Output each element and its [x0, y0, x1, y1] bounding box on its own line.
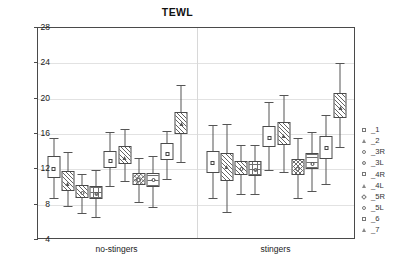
chart-root: TEWL 481216202428 no-stingersstingers _1… [0, 0, 409, 269]
whisker-cap-top [134, 158, 143, 159]
whisker-cap-bottom [149, 207, 158, 208]
whisker-cap-top [336, 63, 345, 64]
mean-marker [151, 178, 155, 182]
boxplot-no-stingers-_3L [89, 28, 103, 240]
box [206, 151, 219, 173]
y-tick-mark [34, 27, 38, 28]
triangle-icon [360, 226, 368, 234]
triangle-icon [360, 137, 368, 145]
box [104, 151, 117, 168]
boxplot-no-stingers-_4R [103, 28, 117, 240]
boxplot-stingers-_5R [291, 28, 305, 240]
mean-marker [165, 152, 169, 156]
x-axis-label: stingers [261, 244, 291, 254]
boxplot-stingers-_4R [262, 28, 276, 240]
whisker-cap-bottom [251, 194, 260, 195]
legend-item-_5L[interactable]: _5L [360, 202, 409, 213]
legend-label: _4R [371, 171, 385, 179]
y-tick-label: 24 [41, 57, 50, 67]
legend-item-_7[interactable]: _7 [360, 225, 409, 236]
mean-marker [136, 177, 142, 183]
legend-item-_4R[interactable]: _4R [360, 169, 409, 180]
whisker-cap-top [177, 85, 186, 86]
square-icon [360, 215, 368, 223]
whisker-cap-top [279, 95, 288, 96]
mean-marker [123, 156, 127, 160]
mean-marker [324, 146, 328, 150]
whisker-cap-bottom [336, 147, 345, 148]
y-tick-label: 16 [41, 128, 50, 138]
legend-item-_3R[interactable]: _3R [360, 146, 409, 157]
boxplot-stingers-_6 [319, 28, 333, 240]
boxplot-stingers-_1 [206, 28, 220, 240]
boxplot-no-stingers-_3R [75, 28, 89, 240]
mean-marker [66, 182, 70, 186]
y-tick-label: 12 [41, 163, 50, 173]
boxplot-no-stingers-_5L [146, 28, 160, 240]
legend-label: _1 [371, 126, 379, 134]
whisker-cap-top [208, 125, 217, 126]
whisker-cap-top [322, 115, 331, 116]
whisker-cap-top [265, 102, 274, 103]
whisker-cap-bottom [49, 198, 58, 199]
box [61, 171, 74, 190]
box [249, 161, 262, 176]
whisker-cap-bottom [134, 202, 143, 203]
whisker-cap-bottom [92, 217, 101, 218]
mean-marker [295, 167, 301, 173]
legend-item-_2[interactable]: _2 [360, 135, 409, 146]
boxplot-no-stingers-_7 [174, 28, 188, 240]
y-tick-label: 4 [45, 234, 50, 244]
legend-item-_5R[interactable]: _5R [360, 191, 409, 202]
whisker-cap-bottom [322, 184, 331, 185]
mean-marker [211, 161, 215, 165]
box [118, 146, 131, 164]
whisker-cap-bottom [163, 179, 172, 180]
whisker-cap-top [78, 174, 87, 175]
mean-marker [267, 136, 271, 140]
boxplot-no-stingers-_5R [132, 28, 146, 240]
x-axis-label: no-stingers [95, 244, 137, 254]
whisker-cap-top [63, 152, 72, 153]
whisker-cap-top [293, 138, 302, 139]
mean-marker [225, 165, 229, 169]
legend-label: _5L [371, 204, 384, 212]
box [291, 159, 304, 175]
box [132, 173, 145, 185]
whisker-cap-bottom [78, 213, 87, 214]
legend-item-_4L[interactable]: _4L [360, 180, 409, 191]
whisker-cap-top [106, 132, 115, 133]
boxplot-stingers-_3R [234, 28, 248, 240]
box [161, 143, 174, 160]
box [220, 153, 233, 180]
legend-label: _7 [371, 226, 379, 234]
box [263, 126, 276, 147]
boxplot-no-stingers-_2 [61, 28, 75, 240]
whisker-cap-bottom [208, 198, 217, 199]
whisker-cap-bottom [265, 170, 274, 171]
whisker-cap-top [49, 138, 58, 139]
legend-item-_6[interactable]: _6 [360, 214, 409, 225]
y-tick-mark [34, 98, 38, 99]
legend-label: _3L [371, 159, 384, 167]
box [306, 153, 319, 170]
plot-area [37, 27, 355, 239]
circledot-icon [360, 159, 368, 167]
whisker-cap-bottom [222, 212, 231, 213]
box [320, 136, 333, 159]
mean-marker [80, 191, 84, 195]
whisker-cap-top [120, 129, 129, 130]
legend-item-_3L[interactable]: _3L [360, 158, 409, 169]
boxplot-layer [38, 28, 354, 238]
y-tick-mark [34, 168, 38, 169]
mean-marker [338, 106, 342, 110]
whisker-cap-top [251, 145, 260, 146]
mean-marker [108, 159, 112, 163]
legend-label: _4L [371, 182, 384, 190]
box [76, 185, 89, 198]
whisker-cap-top [308, 132, 317, 133]
mean-marker [94, 192, 98, 196]
square-icon [360, 126, 368, 134]
legend-item-_1[interactable]: _1 [360, 124, 409, 135]
mean-marker [52, 167, 56, 171]
